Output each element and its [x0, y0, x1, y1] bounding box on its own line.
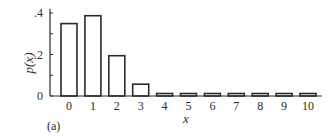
- y-tick-label: 0: [37, 90, 43, 102]
- x-axis-label: x: [183, 111, 189, 127]
- y-tick-label: .4: [34, 7, 43, 19]
- x-tick-label: 5: [177, 100, 201, 112]
- bar-0: [61, 24, 77, 96]
- panel-label: (a): [47, 120, 60, 132]
- x-tick-label: 6: [200, 100, 224, 112]
- x-tick-label: 9: [272, 100, 296, 112]
- bar-1: [85, 16, 101, 96]
- x-tick-label: 4: [153, 100, 177, 112]
- x-tick-label: 3: [129, 100, 153, 112]
- x-tick-label: 0: [57, 100, 81, 112]
- bar-2: [109, 56, 125, 96]
- x-tick-label: 8: [248, 100, 272, 112]
- x-tick-label: 7: [224, 100, 248, 112]
- x-tick-label: 2: [105, 100, 129, 112]
- plot-area: [0, 0, 334, 138]
- x-tick-label: 1: [81, 100, 105, 112]
- x-tick-label: 10: [296, 100, 320, 112]
- y-tick-label: .2: [34, 49, 43, 61]
- bar-3: [133, 84, 149, 96]
- probability-bar-chart: p(x) x (a) 0.2.4012345678910: [0, 0, 334, 138]
